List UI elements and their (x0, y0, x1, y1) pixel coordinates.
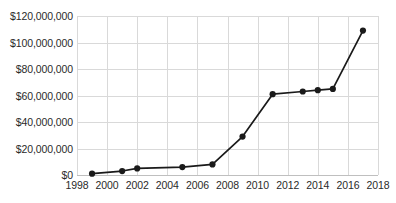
x-axis-tick-label: 2000 (96, 180, 119, 191)
x-axis-tick-label: 1998 (66, 180, 89, 191)
x-axis-tick-label: 2010 (246, 180, 269, 191)
x-axis-tick-label: 2014 (306, 180, 329, 191)
x-axis-tick-label: 2016 (336, 180, 359, 191)
x-axis-tick-label: 2004 (156, 180, 179, 191)
x-axis-tick-label: 2002 (126, 180, 149, 191)
x-axis-tick-label: 2012 (276, 180, 299, 191)
x-axis-tick-label: 2018 (367, 180, 390, 191)
x-axis-tick-label: 2006 (186, 180, 209, 191)
line-chart: $0$20,000,000$40,000,000$60,000,000$80,0… (0, 0, 396, 203)
x-axis: 1998200020022004200620082010201220142016… (0, 0, 396, 203)
x-axis-tick-label: 2008 (216, 180, 239, 191)
